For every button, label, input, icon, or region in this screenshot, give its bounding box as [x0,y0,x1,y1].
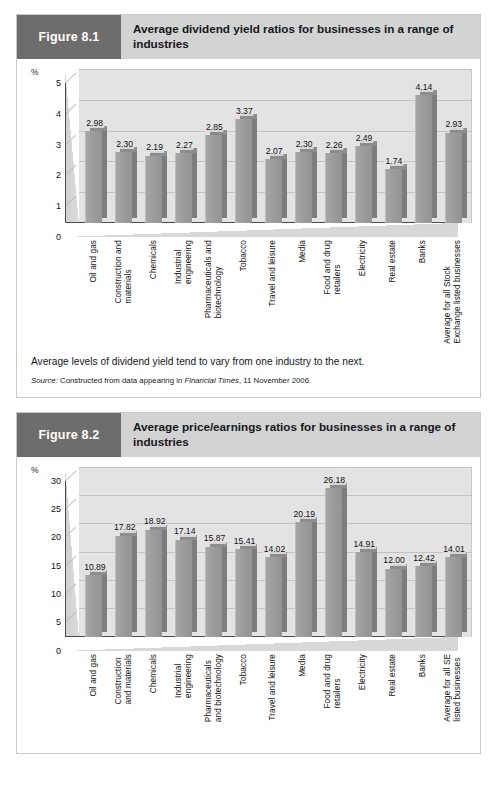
bar[interactable]: 2.85 [205,135,222,223]
bar-side-face [312,517,317,631]
bar[interactable]: 2.98 [85,131,102,223]
bar-front-face [265,557,282,636]
category-label: Real estate [388,240,398,283]
bar[interactable]: 2.49 [355,146,372,223]
bar[interactable]: 15.87 [205,547,222,637]
plot-area: 10.8917.8218.9217.1415.8715.4114.0220.19… [65,467,472,651]
y-axis-tick: 1 [56,201,61,211]
bar-slot: 2.85 [199,69,229,223]
bar-value-label: 2.19 [145,143,164,152]
bar[interactable]: 14.91 [355,552,372,636]
y-axis-tick: 25 [51,504,61,514]
category-label: Travel and leisure [268,654,278,721]
y-axis-ticks: 051015202530 [25,467,65,651]
bar-side-face [342,148,347,218]
y-axis-tick: 0 [56,232,61,242]
chart-category-labels-8-1: Oil and gasConstruction and materialsChe… [65,237,472,345]
bar[interactable]: 2.93 [445,133,462,223]
bar-side-face [432,90,437,218]
bar-front-face [325,153,342,223]
y-axis-line [65,481,66,637]
bar-slot: 17.14 [169,467,199,637]
bar[interactable]: 15.41 [235,549,252,636]
figure-header-8-1: Figure 8.1 Average dividend yield ratios… [17,15,480,59]
bar[interactable]: 2.27 [175,153,192,223]
category-slot: Chemicals [139,237,169,345]
bar-value-label: 2.93 [444,120,463,129]
chart-floor [65,637,458,651]
category-slot: Banks [408,651,438,747]
bar-value-label: 15.41 [233,537,257,546]
bar[interactable]: 2.19 [145,156,162,223]
source-label: Source: [31,376,58,385]
bar-value-label: 15.87 [203,534,227,543]
bar-side-face [372,141,377,218]
bar-front-face [265,159,282,223]
bar-slot: 14.91 [348,467,378,637]
bar[interactable]: 20.19 [295,522,312,636]
bar-front-face [205,547,222,637]
bar-front-face [385,169,402,223]
bar[interactable]: 2.30 [295,152,312,223]
bar-slot: 26.18 [318,467,348,637]
bar-side-face [102,570,107,632]
bar-front-face [145,530,162,637]
bar-slot: 20.19 [288,467,318,637]
source-text-b: , 11 November 2006. [239,376,311,385]
figure-panel-8-2: Figure 8.2 Average price/earnings ratios… [16,412,481,754]
category-label: Industrial engineering [173,654,194,698]
category-slot: Media [288,237,318,345]
bar-front-face [115,536,132,637]
bar-side-face [222,130,227,218]
document-page: Figure 8.1 Average dividend yield ratios… [0,0,497,789]
figure-badge-8-2: Figure 8.2 [17,413,121,457]
bar[interactable]: 14.01 [445,557,462,636]
bar-slot: 2.26 [318,69,348,223]
bar[interactable]: 26.18 [325,488,342,636]
bar-value-label: 26.18 [323,476,347,485]
category-slot: Travel and leisure [259,651,289,747]
bar-value-label: 14.02 [263,545,287,554]
bar-slot: 12.00 [378,467,408,637]
bar-front-face [355,552,372,636]
category-label: Banks [418,240,428,263]
bar-value-label: 14.91 [352,540,376,549]
bar[interactable]: 2.26 [325,153,342,223]
category-slot: Tobacco [229,651,259,747]
category-label: Electricity [358,240,368,276]
bar-front-face [295,522,312,636]
bar[interactable]: 4.14 [415,95,432,223]
bar[interactable]: 17.14 [175,540,192,637]
bar-side-face [252,114,257,218]
bar-slot: 2.07 [259,69,289,223]
y-axis-tick: 5 [56,78,61,88]
bar-side-face [342,483,347,631]
bar[interactable]: 3.37 [235,119,252,223]
bar[interactable]: 14.02 [265,557,282,636]
bar[interactable]: 10.89 [85,575,102,637]
bar-side-face [192,148,197,218]
category-slot: Tobacco [229,237,259,345]
bar-value-label: 2.26 [325,141,344,150]
bar-front-face [445,133,462,223]
bar[interactable]: 1.74 [385,169,402,223]
category-slot: Average for all Stock Exchange listed bu… [438,237,468,345]
bar-slot: 14.02 [259,467,289,637]
y-axis-tick: 15 [51,561,61,571]
bar-side-face [132,531,137,632]
bar[interactable]: 17.82 [115,536,132,637]
bar-front-face [385,569,402,637]
category-slot: Construction and materials [109,237,139,345]
bar[interactable]: 12.42 [415,566,432,636]
bar-front-face [145,156,162,223]
chart-floor [65,223,458,237]
figure-title-8-1: Average dividend yield ratios for busine… [121,15,480,59]
bar[interactable]: 2.30 [115,152,132,223]
bar-slot: 18.92 [139,467,169,637]
bar[interactable]: 2.07 [265,159,282,223]
chart-side-wall [65,467,79,637]
bar[interactable]: 12.00 [385,569,402,637]
category-label: Pharmaceuticals and biotechnology [203,240,224,318]
bar-side-face [252,544,257,631]
bar[interactable]: 18.92 [145,530,162,637]
